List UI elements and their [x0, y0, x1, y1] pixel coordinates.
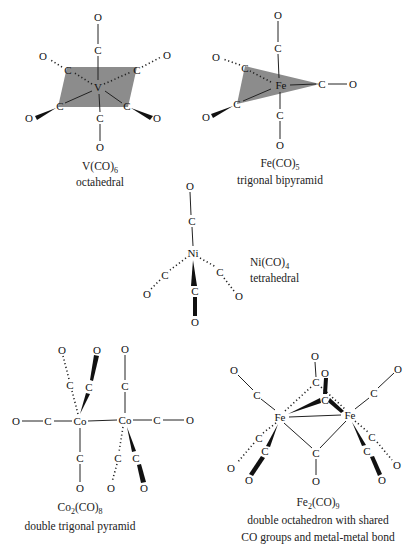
atom-c: C [94, 44, 101, 56]
structure-v-co6: O C V O C C O C O C O C O V(CO)6 octahed… [25, 11, 171, 188]
atom-o: O [378, 474, 386, 486]
atom-c: C [85, 381, 92, 393]
atom-c: C [121, 380, 128, 392]
formula-label: Co2(CO)8 [57, 501, 102, 516]
atom-o: O [394, 363, 402, 375]
atom-o: O [186, 180, 194, 192]
atom-c: C [188, 215, 195, 227]
atom-o: O [163, 49, 171, 61]
structure-ni-co4: O C Ni C O C O C O Ni(CO)4 tetrahedral [143, 180, 299, 328]
atom-o: O [191, 316, 199, 328]
atom-metal: Co [74, 415, 87, 427]
atom-o: O [58, 344, 66, 356]
atom-c: C [161, 269, 168, 281]
atom-metal: Fe [276, 79, 287, 91]
atom-metal: Ni [188, 247, 199, 259]
atom-c: C [132, 452, 139, 464]
atom-c: C [321, 394, 328, 406]
atom-c: C [56, 100, 63, 112]
metal-carbonyl-structures-figure: O C V O C C O C O C O C O V(CO)6 octahed… [0, 0, 412, 546]
formula-label: Fe2(CO)9 [296, 496, 339, 511]
atom-c: C [312, 447, 319, 459]
structure-fe-co5: O C Fe C O C O C O C O Fe(CO)5 trigonal … [202, 9, 357, 187]
geometry-label-line2: CO groups and metal-metal bond [241, 531, 395, 544]
atom-c: C [44, 415, 51, 427]
formula-label: Fe(CO)5 [260, 157, 299, 172]
atom-o: O [107, 482, 115, 494]
atom-c: C [261, 445, 268, 457]
atom-o: O [230, 364, 238, 376]
atom-o: O [186, 414, 194, 426]
geometry-label: trigonal bipyramid [237, 174, 323, 187]
atom-o: O [94, 11, 102, 23]
atom-metal: Fe [275, 411, 286, 423]
atom-o: O [349, 78, 357, 90]
geometry-label-line1: double octahedron with shared [247, 514, 389, 526]
atom-c: C [216, 266, 223, 278]
atom-o: O [393, 459, 401, 471]
geometry-label: octahedral [76, 176, 124, 188]
atom-o: O [227, 462, 235, 474]
atom-o: O [235, 290, 243, 302]
atom-o: O [202, 111, 210, 123]
atom-c: C [276, 109, 283, 121]
atom-c: C [123, 100, 130, 112]
atom-c: C [241, 62, 248, 74]
atom-c: C [96, 112, 103, 124]
geometry-label: tetrahedral [250, 272, 299, 284]
atom-c: C [370, 387, 377, 399]
atom-o: O [121, 343, 129, 355]
structure-co2-co8: O C Co Co C O O C O C C O C O C O C O Co… [12, 343, 194, 533]
atom-metal: V [94, 81, 102, 93]
atom-o: O [321, 367, 329, 379]
atom-o: O [311, 350, 319, 362]
atom-o: O [153, 112, 161, 124]
atom-c: C [153, 414, 160, 426]
geometry-label: double trigonal pyramid [24, 520, 135, 533]
atom-o: O [12, 415, 20, 427]
atom-c: C [368, 431, 375, 443]
formula-label: Ni(CO)4 [250, 256, 289, 271]
atom-o: O [93, 344, 101, 356]
atom-c: C [363, 445, 370, 457]
atom-o: O [245, 474, 253, 486]
atom-o: O [312, 475, 320, 487]
structure-fe2-co9: Fe Fe O C O C C O C O C O C O C O C O C … [227, 350, 402, 544]
atom-c: C [64, 64, 71, 76]
atom-o: O [76, 482, 84, 494]
atom-c: C [76, 452, 83, 464]
atom-c: C [253, 389, 260, 401]
atom-c: C [274, 42, 281, 54]
atom-c: C [133, 64, 140, 76]
atom-c: C [191, 285, 198, 297]
atom-o: O [143, 288, 151, 300]
atom-metal: Fe [345, 409, 356, 421]
atom-o: O [212, 51, 220, 63]
atom-o: O [276, 139, 284, 151]
atom-metal: Co [119, 414, 132, 426]
atom-o: O [25, 112, 33, 124]
atom-c: C [66, 379, 73, 391]
atom-o: O [39, 50, 47, 62]
formula-label: V(CO)6 [82, 160, 118, 175]
atom-o: O [274, 9, 282, 21]
atom-c: C [318, 78, 325, 90]
atom-c: C [233, 98, 240, 110]
atom-c: C [312, 376, 319, 388]
atom-c: C [114, 452, 121, 464]
atom-o: O [96, 141, 104, 153]
atom-c: C [255, 432, 262, 444]
atom-o: O [140, 482, 148, 494]
